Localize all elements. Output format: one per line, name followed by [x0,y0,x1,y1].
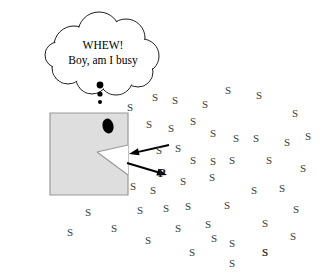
substrate-molecule: S [225,85,231,96]
substrate-molecule: S [210,156,216,167]
substrate-molecule: S [209,172,215,183]
substrate-molecule: S [189,247,195,258]
substrate-molecule: S [175,223,181,234]
reaction-arrows-layer [0,0,330,275]
substrate-molecule: S [211,233,217,244]
substrate-molecule: S [67,227,73,238]
substrate-molecule: S [85,207,91,218]
substrate-molecule: S [185,201,191,212]
substrate-molecule: S [168,123,174,134]
substrate-molecule: S [292,108,298,119]
substrate-molecule: S [229,258,235,269]
substrate-molecule: S [251,185,257,196]
product-molecule: P [158,167,165,179]
substrate-molecule: S [279,183,285,194]
substrate-molecule: S [224,200,230,211]
substrate-molecule: S [175,143,181,154]
substrate-molecule: S [205,219,211,230]
substrate-molecule: S [300,163,306,174]
substrate-molecule: S [172,95,178,106]
substrate-molecule: S [253,133,259,144]
substrate-molecule: S [180,176,186,187]
figure-canvas: WHEW! Boy, am I busy SSSSSSSSSSSSSSSSSSS… [0,0,330,275]
substrate-molecule: S [233,133,239,144]
substrate-molecule: S [262,247,268,258]
substrate-molecule: S [111,223,117,234]
substrate-molecule: S [163,203,169,214]
substrate-molecule: S [284,137,290,148]
thought-bubble-line-1: WHEW! [55,38,151,53]
substrate-molecule: S [130,181,136,192]
thought-bubble-text: WHEW! Boy, am I busy [55,38,151,68]
substrate-molecule: S [305,131,311,142]
substrate-molecule: S [152,92,158,103]
substrate-molecule: S [256,90,262,101]
thought-bubble-line-2: Boy, am I busy [55,53,151,68]
substrate-molecule: S [229,238,235,249]
substrate-molecule: S [156,145,162,156]
substrate-molecule: S [210,128,216,139]
substrate-molecule: S [146,119,152,130]
substrate-molecule: S [290,231,296,242]
substrate-in-arrow [129,145,169,155]
substrate-molecule: S [150,185,156,196]
substrate-molecule: S [202,99,208,110]
substrate-molecule: S [262,218,268,229]
substrate-molecule: S [190,116,196,127]
substrate-molecule: S [293,204,299,215]
substrate-molecule: S [127,102,133,113]
substrate-molecule: S [145,235,151,246]
substrate-molecule: S [266,155,272,166]
substrate-molecule: S [229,155,235,166]
substrate-molecule: S [137,205,143,216]
substrate-molecule: S [190,155,196,166]
